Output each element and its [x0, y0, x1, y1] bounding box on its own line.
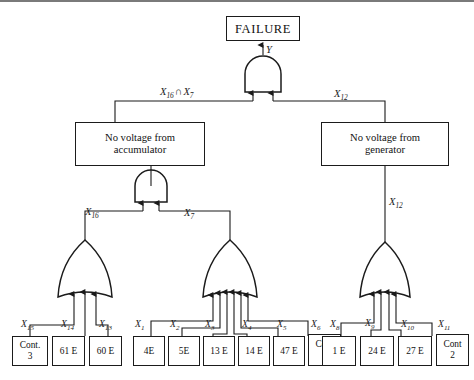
edge-label-and-right: X12 [334, 88, 348, 102]
var-label-x1: X1 [135, 318, 144, 332]
var-label-x11: X11 [438, 318, 450, 332]
leaf-x11: Cont 2 [436, 334, 469, 366]
edge-label-or-mid-out: X7 [184, 207, 194, 221]
leaf-x1: 4E [133, 336, 165, 366]
leaf-x10: 27 E [398, 336, 432, 366]
edge-label-y-text: Y [266, 44, 272, 55]
node-failure: FAILURE [226, 16, 300, 41]
edge-label-y: Y [266, 44, 272, 55]
var-label-x13: X13 [99, 318, 112, 332]
fault-tree-diagram: FAILURE No voltage from accumulator No v… [0, 0, 474, 380]
leaf-x3: 13 E [203, 336, 235, 366]
var-label-x10: X10 [401, 318, 414, 332]
var-label-x3: X3 [205, 318, 214, 332]
leaf-x5: 47 E [273, 336, 305, 366]
leaf-x8: 1 E [322, 336, 356, 366]
edge-label-or-left-out: X16 [85, 206, 99, 220]
var-label-x6: X6 [311, 318, 320, 332]
var-label-x8: X8 [330, 318, 339, 332]
and-gate-top-shape [245, 56, 281, 92]
leaf-x4: 14 E [238, 336, 270, 366]
leaf-x14: 61 E [52, 336, 85, 366]
var-label-x4: X4 [242, 318, 251, 332]
or-gate-left-shape [58, 240, 112, 297]
var-label-x15: X15 [21, 318, 34, 332]
leaf-x2: 5E [168, 336, 200, 366]
node-no-voltage-generator: No voltage from generator [321, 122, 449, 166]
var-label-x2: X2 [170, 318, 179, 332]
edge-label-and-left: X16∩X7 [160, 86, 194, 100]
or-gate-right-shape [360, 242, 410, 297]
var-label-x9: X9 [365, 317, 374, 331]
leaf-x15: Cont. 3 [12, 336, 48, 366]
var-label-x14: X14 [61, 318, 74, 332]
leaf-x9: 24 E [360, 336, 394, 366]
node-no-voltage-accumulator: No voltage from accumulator [75, 122, 205, 166]
leaf-x13: 60 E [89, 336, 122, 366]
var-label-x5: X5 [277, 318, 286, 332]
or-gate-middle-shape [203, 240, 257, 297]
edge-label-or-right-out: X12 [389, 196, 403, 210]
